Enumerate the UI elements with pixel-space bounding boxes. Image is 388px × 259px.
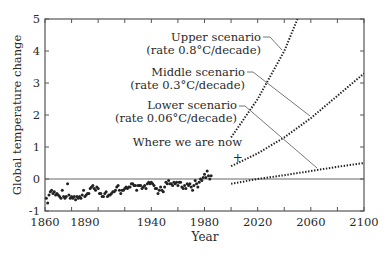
svg-text:(rate 0.06°C/decade): (rate 0.06°C/decade) bbox=[115, 111, 237, 125]
y-axis-label: Global temperature change bbox=[10, 35, 24, 196]
x-tick-label: 2100 bbox=[349, 215, 378, 229]
data-point bbox=[196, 186, 199, 189]
x-tick-label: 2060 bbox=[296, 215, 325, 229]
data-point bbox=[198, 181, 201, 184]
data-point bbox=[81, 194, 84, 197]
data-point bbox=[163, 186, 166, 189]
data-point bbox=[159, 186, 162, 189]
data-point bbox=[118, 189, 121, 192]
data-point bbox=[191, 189, 194, 192]
x-tick-label: 2020 bbox=[243, 215, 272, 229]
x-tick-label: 1980 bbox=[190, 215, 219, 229]
data-point bbox=[135, 189, 138, 192]
svg-text:(rate 0.8°C/decade): (rate 0.8°C/decade) bbox=[146, 43, 261, 57]
label-upper-scenario: Upper scenario (rate 0.8°C/decade) bbox=[146, 30, 261, 57]
data-point bbox=[74, 198, 77, 201]
data-point bbox=[200, 179, 203, 182]
data-point bbox=[61, 189, 64, 192]
data-point bbox=[179, 181, 182, 184]
middle-scenario-line bbox=[231, 73, 364, 166]
data-point bbox=[129, 186, 132, 189]
y-tick-label: 2 bbox=[33, 108, 40, 122]
label-middle-scenario: Middle scenario (rate 0.3°C/decade) bbox=[130, 65, 245, 92]
data-point bbox=[167, 179, 170, 182]
data-point bbox=[184, 187, 187, 190]
data-point bbox=[99, 192, 102, 195]
lower-leader-line bbox=[239, 106, 317, 168]
upper-leader-line bbox=[263, 37, 282, 50]
data-point bbox=[152, 184, 155, 187]
y-tick-label: 4 bbox=[33, 44, 40, 58]
data-point bbox=[105, 190, 108, 193]
middle-leader-line bbox=[247, 72, 310, 116]
y-tick-label: 5 bbox=[33, 12, 40, 26]
data-point bbox=[145, 187, 148, 190]
data-point bbox=[188, 182, 191, 185]
lower-scenario-line bbox=[231, 163, 364, 184]
data-point bbox=[192, 184, 195, 187]
data-point bbox=[134, 184, 137, 187]
data-point bbox=[53, 190, 56, 193]
data-point bbox=[171, 184, 174, 187]
data-point bbox=[45, 197, 48, 200]
data-point bbox=[79, 197, 82, 200]
data-point bbox=[204, 176, 207, 179]
data-point bbox=[203, 173, 206, 176]
svg-text:Upper scenario: Upper scenario bbox=[171, 30, 261, 44]
data-point bbox=[202, 176, 205, 179]
data-point bbox=[207, 174, 210, 177]
data-point bbox=[73, 195, 76, 198]
y-tick-label: 1 bbox=[33, 140, 40, 154]
svg-text:Middle scenario: Middle scenario bbox=[151, 65, 245, 79]
data-point bbox=[175, 181, 178, 184]
data-point bbox=[97, 187, 100, 190]
data-point bbox=[155, 187, 158, 190]
data-point bbox=[46, 202, 49, 205]
data-point bbox=[65, 195, 68, 198]
data-point bbox=[143, 184, 146, 187]
data-point bbox=[194, 179, 197, 182]
data-point bbox=[66, 182, 69, 185]
x-tick-label: 1940 bbox=[137, 215, 166, 229]
data-point bbox=[183, 184, 186, 187]
data-point bbox=[59, 197, 62, 200]
data-point bbox=[158, 189, 161, 192]
data-point bbox=[166, 182, 169, 185]
data-point bbox=[91, 184, 94, 187]
data-point bbox=[210, 174, 213, 177]
data-point bbox=[208, 178, 211, 181]
data-point bbox=[47, 194, 50, 197]
data-point bbox=[87, 192, 90, 195]
data-point bbox=[114, 189, 117, 192]
svg-text:(rate 0.3°C/decade): (rate 0.3°C/decade) bbox=[130, 78, 245, 92]
data-point bbox=[139, 184, 142, 187]
x-tick-label: 1890 bbox=[70, 215, 99, 229]
x-axis-label: Year bbox=[191, 230, 219, 244]
data-point bbox=[82, 189, 85, 192]
data-point bbox=[190, 186, 193, 189]
svg-text:Lower scenario: Lower scenario bbox=[147, 98, 237, 112]
data-point bbox=[182, 187, 185, 190]
data-point bbox=[67, 194, 70, 197]
label-lower-scenario: Lower scenario (rate 0.06°C/decade) bbox=[115, 98, 237, 125]
data-point bbox=[119, 192, 122, 195]
y-tick-label: -1 bbox=[29, 204, 40, 218]
data-point bbox=[206, 170, 209, 173]
y-tick-label: 3 bbox=[33, 76, 40, 90]
label-where-we-are-now: Where we are now bbox=[133, 135, 242, 149]
data-point bbox=[50, 189, 53, 192]
plus-marker-icon: + bbox=[233, 151, 243, 165]
data-point bbox=[156, 192, 159, 195]
data-point bbox=[94, 189, 97, 192]
data-point bbox=[162, 190, 165, 193]
data-point bbox=[102, 195, 105, 198]
data-point bbox=[176, 184, 179, 187]
data-point bbox=[195, 182, 198, 185]
data-point bbox=[117, 184, 120, 187]
y-tick-label: 0 bbox=[33, 172, 40, 186]
temperature-chart: 1860189019401980202020602100-1012345+ Gl… bbox=[0, 0, 388, 259]
